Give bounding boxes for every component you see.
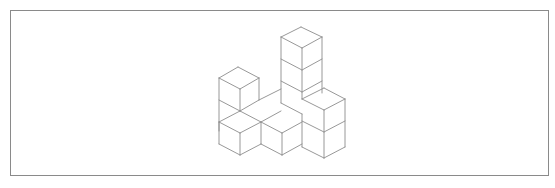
- cube-edge: [240, 111, 261, 122]
- cube-edge: [282, 144, 302, 155]
- cube-edge: [261, 144, 282, 155]
- cube-edge: [281, 81, 302, 92]
- cube-edge: [240, 100, 259, 111]
- cube-edge: [302, 147, 324, 158]
- cube-edge: [282, 122, 302, 133]
- cube-edge: [219, 122, 240, 133]
- cube-edge: [281, 27, 301, 37]
- cube-edge: [219, 111, 240, 122]
- cube-edge: [281, 103, 302, 114]
- cube-edge: [324, 88, 345, 99]
- cube-edge: [302, 37, 322, 48]
- isometric-cubes-figure: [0, 0, 555, 188]
- cube-edge: [240, 78, 259, 89]
- cube-edge: [301, 27, 322, 37]
- cube-edge: [324, 147, 345, 158]
- cube-edge: [302, 88, 324, 99]
- cube-edge: [240, 122, 261, 133]
- cube-edge: [219, 67, 238, 78]
- cube-edge: [281, 37, 302, 48]
- cube-edge: [302, 59, 322, 70]
- cube-edge: [219, 144, 240, 155]
- cube-edge: [261, 122, 282, 133]
- cube-edge: [302, 99, 324, 110]
- cube-edge: [240, 144, 261, 155]
- cube-edge: [259, 89, 281, 100]
- cube-edge: [324, 121, 345, 132]
- cube-edge: [238, 67, 259, 78]
- cube-edge: [281, 59, 302, 70]
- cube-edge: [219, 78, 240, 89]
- cube-edge: [302, 121, 324, 132]
- cube-edge: [324, 99, 345, 110]
- cube-edge: [261, 111, 281, 122]
- cube-edge: [219, 100, 240, 111]
